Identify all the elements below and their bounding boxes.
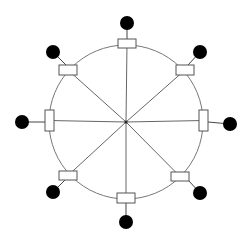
ring-star-diagram (0, 0, 248, 240)
node-dot-left (15, 115, 29, 129)
node-box-bottom-left (59, 171, 77, 180)
node-dot-top-left (46, 45, 60, 59)
node-dot-top-right (193, 45, 207, 59)
spoke-top (126, 44, 127, 123)
center-hub (125, 121, 128, 124)
spoke-right (126, 121, 204, 123)
spoke-top-right (126, 70, 185, 122)
node-dot-bottom-left (46, 185, 60, 199)
node-dot-bottom (119, 215, 133, 229)
node-dot-top (120, 16, 134, 30)
node-box-top-left (59, 65, 77, 75)
node-box-top (118, 39, 136, 48)
node-box-bottom (117, 193, 135, 203)
node-dot-bottom-right (193, 186, 207, 200)
spoke-left (50, 121, 127, 123)
spoke-bottom-right (126, 122, 180, 177)
node-dot-right (223, 117, 237, 131)
spoke-top-left (68, 70, 126, 122)
node-box-left (45, 110, 54, 131)
node-box-top-right (176, 65, 194, 75)
node-box-right (199, 110, 208, 131)
spoke-bottom-left (68, 122, 126, 176)
node-box-bottom-right (171, 172, 189, 181)
